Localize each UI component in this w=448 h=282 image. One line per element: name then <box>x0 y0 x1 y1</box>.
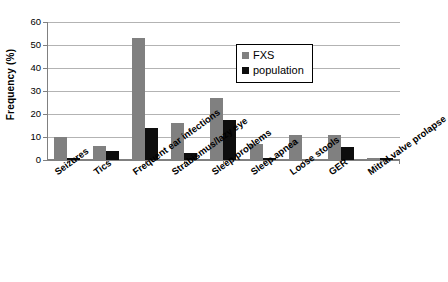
bar-group <box>47 22 86 160</box>
legend-label: FXS <box>253 50 274 61</box>
y-tick-label-10: 10 <box>13 132 41 141</box>
y-tick-label-40: 40 <box>13 63 41 72</box>
y-tick-label-20: 20 <box>13 109 41 118</box>
y-tick-label-50: 50 <box>13 40 41 49</box>
bars <box>125 22 164 160</box>
x-axis-labels: SeizuresTicsFrequent ear infectionsStrab… <box>0 163 415 282</box>
legend-item-fxs: FXS <box>242 48 304 63</box>
bars <box>361 22 400 160</box>
legend: FXSpopulation <box>236 44 313 83</box>
legend-swatch-icon <box>242 67 249 74</box>
bar-group <box>361 22 400 160</box>
legend-swatch-icon <box>242 52 249 59</box>
bar-group <box>86 22 125 160</box>
legend-item-population: population <box>242 63 304 78</box>
bars <box>86 22 125 160</box>
bar-group <box>125 22 164 160</box>
y-tick-label-60: 60 <box>13 17 41 26</box>
y-tick-label-30: 30 <box>13 86 41 95</box>
legend-label: population <box>253 65 304 76</box>
bar-fxs <box>132 38 145 160</box>
bar-fxs <box>54 137 67 160</box>
bars <box>47 22 86 160</box>
